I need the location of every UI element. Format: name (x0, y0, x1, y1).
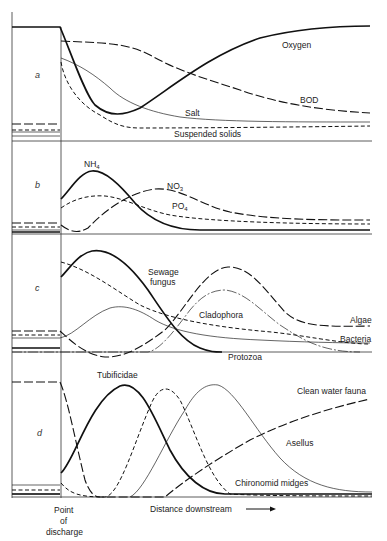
clean-water-fauna-label: Clean water fauna (297, 386, 366, 396)
no3-label: NO3 (167, 181, 184, 192)
discharge-label: discharge (46, 527, 83, 537)
axes (12, 12, 372, 498)
panel-d: d Tubificidae Clean water fauna Asellus … (12, 370, 372, 497)
sewage-fungus-curve (12, 251, 222, 352)
distance-downstream-label: Distance downstream (150, 504, 232, 514)
suspended-solids-label: Suspended solids (174, 129, 241, 139)
sewage-label: Sewage (148, 267, 179, 277)
asellus-label: Asellus (286, 438, 313, 448)
point-label: Point (54, 505, 74, 515)
protozoa-label: Protozoa (228, 352, 262, 362)
panel-a: a Oxygen BOD Salt Suspended solids (12, 26, 370, 139)
panel-c: c Sewage fungus Cladophora Algae Bacteri… (12, 251, 372, 362)
bacteria-label: Bacteria (340, 334, 371, 344)
river-pollution-diagram: a Oxygen BOD Salt Suspended solids b NH4… (0, 0, 387, 541)
oxygen-label: Oxygen (282, 40, 312, 50)
cladophora-curve (12, 290, 360, 352)
nh4-curve (12, 171, 370, 232)
panel-c-label: c (35, 283, 40, 293)
chironomid-label: Chironomid midges (235, 478, 308, 488)
panel-d-label: d (37, 428, 43, 438)
po4-curve (12, 196, 370, 227)
arrow-right-icon (246, 507, 276, 512)
bacteria-curve (12, 262, 370, 344)
chironomid-curve (12, 389, 372, 497)
salt-label: Salt (185, 108, 200, 118)
x-axis-labels: Point of discharge Distance downstream (46, 504, 276, 537)
panel-a-label: a (35, 70, 40, 80)
po4-label: PO4 (172, 201, 188, 212)
clean-water-fauna-curve (12, 382, 370, 497)
fungus-label: fungus (150, 277, 176, 287)
algae-label: Algae (350, 315, 372, 325)
tubificidae-label: Tubificidae (97, 370, 138, 380)
cladophora-label: Cladophora (199, 310, 243, 320)
panel-b-label: b (35, 180, 40, 190)
nh4-label: NH4 (84, 159, 100, 170)
bod-label: BOD (300, 95, 318, 105)
panel-b: b NH4 NO3 PO4 (12, 159, 370, 232)
of-label: of (60, 516, 68, 526)
no3-curve (12, 189, 370, 232)
